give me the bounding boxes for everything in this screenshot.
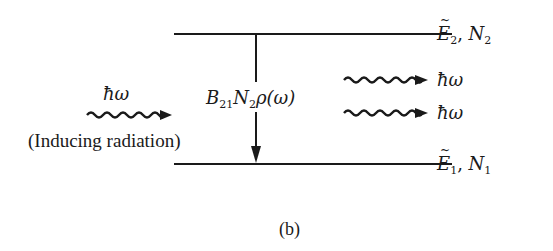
transition-rate-label: B21N2ρ(ω) <box>205 89 296 110</box>
upper-population-subscript: 2 <box>484 34 491 47</box>
lower-population-symbol: N <box>469 153 485 174</box>
incident-photon-label: ħω <box>103 85 129 103</box>
transition-arrowhead-icon <box>251 146 261 163</box>
stimulated-emission-diagram: E2, N2 E1, N1 B21N2ρ(ω) ħω (Inducing rad… <box>0 0 553 251</box>
emitted-photon-2-label: ħω <box>437 104 463 122</box>
population-symbol: N <box>233 87 249 108</box>
emitted-photon-2-arrowhead-icon <box>415 108 428 118</box>
einstein-coefficient-symbol: B <box>206 87 219 108</box>
emitted-photon-1-label: ħω <box>437 71 463 89</box>
upper-separator: , <box>457 23 463 44</box>
energy-density-term: ρ(ω) <box>256 87 295 108</box>
upper-level-label: E2, N2 <box>437 25 491 46</box>
lower-separator: , <box>457 153 463 174</box>
emitted-photon-2-wave-icon <box>344 111 422 116</box>
upper-energy-symbol: E <box>437 25 450 43</box>
lower-population-subscript: 1 <box>484 164 491 177</box>
emitted-photon-1-wave-icon <box>344 78 422 83</box>
inducing-radiation-label: (Inducing radiation) <box>28 131 180 150</box>
emitted-photon-1-arrowhead-icon <box>415 75 428 85</box>
upper-population-symbol: N <box>469 23 485 44</box>
incident-photon-arrowhead-icon <box>160 110 172 120</box>
lower-level-label: E1, N1 <box>437 155 491 176</box>
population-subscript: 2 <box>249 98 256 111</box>
figure-caption: (b) <box>279 220 300 238</box>
incident-photon-wave-icon <box>87 113 163 118</box>
einstein-coefficient-subscript: 21 <box>219 98 233 111</box>
lower-energy-symbol: E <box>437 155 450 173</box>
